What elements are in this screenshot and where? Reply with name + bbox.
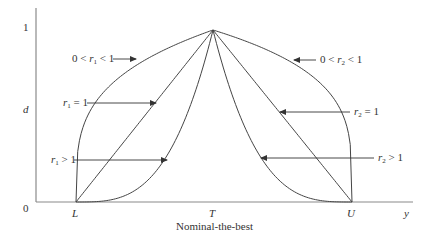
- label-suffix: = 1: [362, 105, 379, 117]
- label-suffix: = 1: [71, 96, 88, 108]
- label-suffix: < 1: [345, 53, 362, 65]
- y-axis-label: d: [23, 104, 29, 115]
- x-tick-L: L: [72, 208, 78, 219]
- label-suffix: > 1: [386, 151, 403, 163]
- y-tick-1: 1: [23, 22, 29, 33]
- label-right-convex: r2 > 1: [378, 152, 403, 165]
- y-tick-0: 0: [23, 203, 29, 214]
- x-tick-U: U: [347, 208, 355, 219]
- label-left-convex: r1 > 1: [51, 154, 76, 167]
- label-left-linear: r1 = 1: [63, 97, 88, 110]
- label-suffix: > 1: [59, 153, 76, 165]
- diagram-title: Nominal-the-best: [176, 221, 253, 232]
- label-prefix: 0 <: [320, 53, 337, 65]
- label-right-linear: r2 = 1: [354, 106, 379, 119]
- desirability-diagram: [0, 0, 433, 245]
- x-axis-label: y: [404, 208, 409, 219]
- label-suffix: < 1: [97, 52, 114, 64]
- label-right-concave: 0 < r2 < 1: [320, 54, 362, 67]
- label-left-concave: 0 < r1 < 1: [72, 53, 114, 66]
- label-prefix: 0 <: [72, 52, 89, 64]
- x-tick-T: T: [209, 208, 215, 219]
